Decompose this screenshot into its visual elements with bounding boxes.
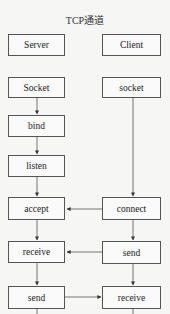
client-socket-box: socket: [102, 77, 161, 98]
server-accept-box: accept: [8, 197, 65, 220]
server-listen-box: listen: [8, 155, 65, 177]
server-header-box: Server: [8, 34, 65, 56]
client-connect-box: connect: [102, 197, 161, 220]
server-socket-box: Socket: [8, 77, 65, 98]
server-bind-box: bind: [8, 115, 65, 137]
server-receive-box: receive: [8, 241, 65, 263]
client-header-box: Client: [102, 34, 161, 56]
client-receive-box: receive: [102, 286, 161, 309]
server-send-box: send: [8, 286, 65, 309]
client-send-box: send: [102, 241, 161, 264]
